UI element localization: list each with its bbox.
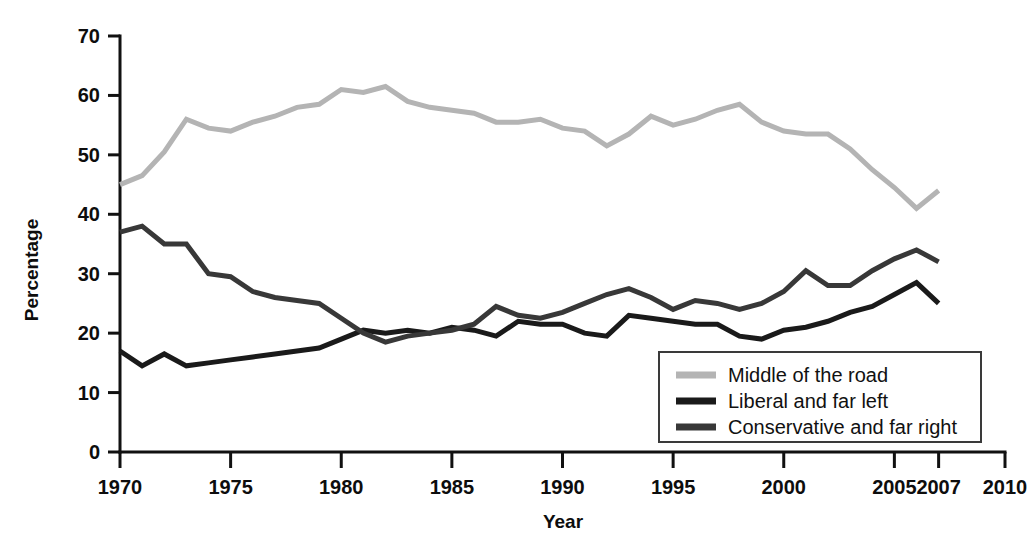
x-tick-label-2010: 2010 xyxy=(983,476,1028,498)
x-tick-marks xyxy=(120,452,1005,468)
y-tick-label-30: 30 xyxy=(78,263,100,285)
legend-label-conservative-and-far-right: Conservative and far right xyxy=(728,416,957,438)
x-axis: 1970197519801985199019952000200520072010 xyxy=(98,452,1028,498)
line-chart: 010203040506070 197019751980198519901995… xyxy=(0,0,1036,550)
x-tick-label-2005: 2005 xyxy=(872,476,917,498)
y-tick-label-60: 60 xyxy=(78,84,100,106)
y-tick-label-20: 20 xyxy=(78,322,100,344)
y-axis-title: Percentage xyxy=(21,219,42,321)
y-tick-labels: 010203040506070 xyxy=(78,25,100,463)
x-tick-label-1975: 1975 xyxy=(208,476,253,498)
legend-label-liberal-and-far-left: Liberal and far left xyxy=(728,390,889,412)
x-tick-label-2000: 2000 xyxy=(762,476,807,498)
x-axis-title: Year xyxy=(543,511,584,532)
y-tick-label-70: 70 xyxy=(78,25,100,47)
series-line-middle-of-the-road xyxy=(120,87,939,209)
x-tick-label-1970: 1970 xyxy=(98,476,143,498)
legend-label-middle-of-the-road: Middle of the road xyxy=(728,364,888,386)
y-tick-label-10: 10 xyxy=(78,382,100,404)
y-tick-label-50: 50 xyxy=(78,144,100,166)
y-axis: 010203040506070 xyxy=(78,25,120,463)
chart-container: 010203040506070 197019751980198519901995… xyxy=(0,0,1036,550)
x-tick-labels: 1970197519801985199019952000200520072010 xyxy=(98,476,1028,498)
x-tick-label-1995: 1995 xyxy=(651,476,696,498)
y-tick-marks xyxy=(108,36,120,452)
x-tick-label-1980: 1980 xyxy=(319,476,364,498)
y-tick-label-0: 0 xyxy=(89,441,100,463)
y-tick-label-40: 40 xyxy=(78,203,100,225)
x-tick-label-2007: 2007 xyxy=(916,476,961,498)
x-tick-label-1990: 1990 xyxy=(540,476,585,498)
series-lines xyxy=(120,87,939,366)
legend: Middle of the road Liberal and far left … xyxy=(659,352,981,442)
x-tick-label-1985: 1985 xyxy=(430,476,475,498)
